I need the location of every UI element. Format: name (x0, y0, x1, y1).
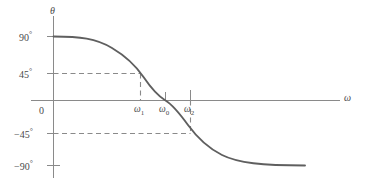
x-tick-label-omega0-sub: 0 (166, 109, 170, 117)
y-tick-label-0: 0 (39, 104, 44, 116)
x-tick-label-omega2-base: ω (184, 104, 191, 114)
y-tick-label-neg90-degree: ° (30, 159, 33, 168)
y-tick-label-45: 45° (19, 68, 32, 80)
y-tick-label-45-degree: ° (29, 67, 32, 76)
phase-plot-canvas (0, 0, 370, 184)
y-tick-label-90: 90° (19, 31, 32, 43)
x-tick-label-omega1-base: ω (134, 104, 141, 114)
y-tick-label-90-degree: ° (29, 30, 32, 39)
x-tick-label-omega2: ω2 (184, 105, 194, 117)
y-tick-label-neg45-degree: ° (30, 127, 33, 136)
x-tick-label-omega2-sub: 2 (191, 109, 195, 117)
y-tick-label-45-text: 45 (19, 69, 29, 80)
y-axis-label: θ (50, 6, 55, 16)
y-tick-label-neg45-text: −45 (14, 129, 30, 140)
x-tick-label-omega1: ω1 (134, 105, 144, 117)
y-tick-label-90-text: 90 (19, 32, 29, 43)
x-tick-label-omega1-sub: 1 (141, 109, 145, 117)
x-axis-label: ω (344, 93, 351, 103)
x-tick-label-omega0: ω0 (159, 105, 169, 117)
y-tick-label-0-text: 0 (39, 105, 44, 116)
y-tick-label-neg45: −45° (14, 128, 33, 140)
y-tick-label-neg90: −90° (14, 160, 33, 172)
phase-response-figure: θ ω 90° 45° 0 −45° −90° ω1 ω0 ω2 (0, 0, 370, 184)
x-tick-label-omega0-base: ω (159, 104, 166, 114)
y-tick-label-neg90-text: −90 (14, 161, 30, 172)
